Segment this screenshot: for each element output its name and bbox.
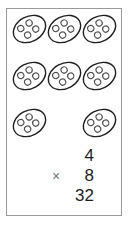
multiplicand-row: 4 bbox=[44, 146, 110, 166]
product-value: 32 bbox=[75, 186, 94, 205]
multiply-operator-icon: × bbox=[52, 166, 60, 186]
worksheet-canvas: 4 × 8 32 bbox=[0, 0, 131, 226]
multiplication-problem: 4 × 8 32 bbox=[44, 146, 110, 206]
multiplicand-value: 4 bbox=[85, 146, 94, 165]
product-row: 32 bbox=[44, 186, 110, 206]
multiplier-value: 8 bbox=[85, 166, 94, 185]
multiplier-row: × 8 bbox=[44, 166, 110, 186]
